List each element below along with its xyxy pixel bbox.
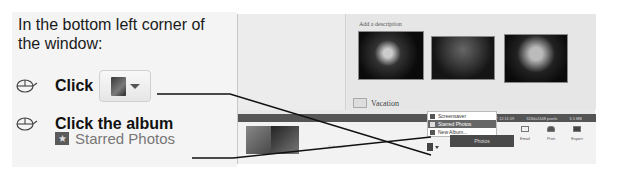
description-field[interactable]: Add a description [359,21,402,27]
album-icon [430,114,435,119]
export-icon [573,126,581,132]
photo-info-bar: Snow.jpg 27-12-2007 12:11:59 3264x2448 p… [238,114,596,122]
photo-thumbnail-girl[interactable] [504,34,568,83]
photos-button[interactable]: Photos [450,135,514,147]
starred-album-icon [430,122,435,127]
app-screenshot: Add a description Vacation Snow.jpg 27-1… [237,14,595,164]
info-dimensions: 3264x2448 pixels [526,116,557,121]
step-1: Click [12,70,151,102]
album-dropdown-button[interactable] [427,137,439,145]
folder-vacation[interactable]: Vacation [353,98,399,108]
tray-thumbnail-1[interactable] [246,126,274,154]
new-album-icon [430,130,435,135]
folder-pane [238,14,346,110]
step-1-label: Click [55,77,93,95]
tray-thumbnail-2[interactable] [271,126,299,154]
email-icon [521,126,529,132]
print-button[interactable]: Print [540,126,562,141]
menu-item-starred-photos[interactable]: Starred Photos [428,120,496,128]
album-view: Add a description Vacation [347,14,596,110]
starred-photos-label: Starred Photos [75,130,175,147]
folder-icon [353,98,367,108]
album-icon [111,77,126,96]
mouse-click-icon [16,79,38,93]
photo-thumbnail-pumpjack[interactable] [431,36,495,80]
chevron-down-icon [130,84,140,89]
mouse-click-icon [16,117,38,131]
starred-album-icon: ★ [55,132,69,145]
intro-text: In the bottom left corner of the window: [18,15,228,53]
selection-label: Selection [328,144,344,149]
info-size: 3.5 MB [569,116,582,121]
instruction-panel: In the bottom left corner of the window:… [12,12,237,167]
email-button[interactable]: Email [514,126,536,141]
print-icon [547,126,555,132]
photo-thumbnail-tulip[interactable] [358,31,424,80]
album-dropdown-button-image [99,70,151,102]
menu-item-screensaver[interactable]: Screensaver [428,112,496,120]
export-button[interactable]: Export [566,126,588,141]
album-menu: Screensaver Starred Photos New Album... [427,111,497,137]
starred-photos-reference: ★ Starred Photos [55,130,175,147]
folder-name: Vacation [371,99,399,108]
